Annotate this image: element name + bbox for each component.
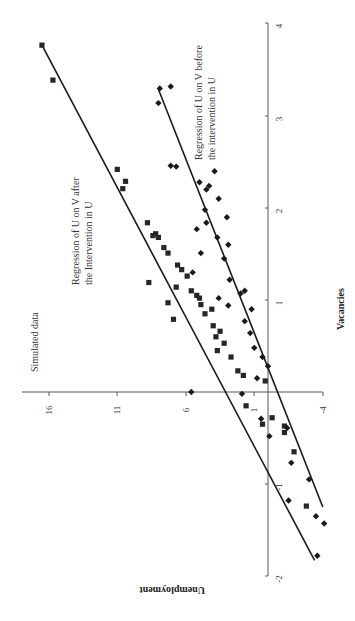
- v-tick-label: 4: [274, 23, 284, 28]
- square-point: [150, 233, 155, 238]
- square-point: [189, 288, 194, 293]
- x-axis-title: Vacancies: [335, 288, 346, 330]
- diamond-point: [313, 513, 319, 519]
- before-regression-label-line1: Regression of U on V before: [193, 45, 204, 160]
- diamond-point: [189, 269, 195, 275]
- square-point: [174, 285, 179, 290]
- before-regression-label-line2: the intervention in U: [206, 76, 217, 160]
- v-tick-label: 1: [274, 301, 284, 306]
- square-point: [179, 267, 184, 272]
- diamond-point: [224, 214, 230, 220]
- square-point: [235, 368, 240, 373]
- diamond-point: [168, 83, 174, 89]
- diamond-point: [168, 162, 174, 168]
- square-point: [291, 449, 296, 454]
- diamond-point: [242, 318, 248, 324]
- square-point: [156, 235, 161, 240]
- diamond-point: [314, 553, 320, 559]
- diamond-point: [211, 168, 217, 174]
- square-point: [39, 43, 44, 48]
- square-point: [175, 262, 180, 267]
- square-point: [215, 348, 220, 353]
- data-points: [39, 43, 327, 559]
- u-tick-label: 16: [44, 405, 54, 415]
- before-regression-line: [158, 89, 322, 507]
- scatter-chart: 4321-1-2 161161-4 Simulated data Regress…: [0, 0, 355, 621]
- square-point: [241, 373, 246, 378]
- square-point: [115, 167, 120, 172]
- diamond-point: [188, 389, 194, 395]
- square-point: [146, 280, 151, 285]
- square-point: [243, 403, 248, 408]
- v-tick-label: 3: [274, 116, 284, 121]
- axes: [22, 23, 323, 576]
- diamond-point: [173, 163, 179, 169]
- square-point: [202, 311, 207, 316]
- diamond-point: [194, 226, 200, 232]
- square-point: [145, 220, 150, 225]
- square-point: [120, 186, 125, 191]
- square-point: [197, 296, 202, 301]
- diamond-point: [215, 196, 221, 202]
- square-point: [171, 317, 176, 322]
- square-point: [304, 503, 309, 508]
- square-point: [282, 430, 287, 435]
- u-tick-label: 1: [249, 408, 259, 413]
- square-point: [260, 422, 265, 427]
- square-point: [209, 307, 214, 312]
- after-regression-label-line2: the Intervention in U: [83, 201, 94, 285]
- diamond-point: [321, 520, 327, 526]
- after-regression-label-line1: Regression of U on V after: [70, 177, 81, 285]
- square-point: [50, 78, 55, 83]
- diamond-point: [254, 375, 260, 381]
- square-point: [165, 250, 170, 255]
- u-tick-label: 6: [181, 407, 191, 412]
- square-point: [161, 245, 166, 250]
- diamond-point: [225, 302, 231, 308]
- diamond-point: [203, 220, 209, 226]
- u-tick-label: -4: [318, 406, 328, 414]
- diamond-point: [248, 306, 254, 312]
- v-tick-label: 2: [274, 209, 284, 214]
- diamond-point: [288, 460, 294, 466]
- square-point: [228, 354, 233, 359]
- square-point: [263, 378, 268, 383]
- diamond-point: [266, 433, 272, 439]
- diamond-point: [196, 179, 202, 185]
- diamond-point: [198, 250, 204, 256]
- diamond-point: [285, 497, 291, 503]
- diamond-point: [251, 345, 257, 351]
- square-point: [185, 273, 190, 278]
- diamond-point: [258, 415, 264, 421]
- square-point: [165, 300, 170, 305]
- square-point: [222, 341, 227, 346]
- u-tick-label: 11: [112, 406, 122, 415]
- diamond-point: [247, 330, 253, 336]
- square-point: [270, 415, 275, 420]
- square-point: [217, 329, 222, 334]
- square-point: [198, 302, 203, 307]
- v-tick-label: -2: [274, 575, 284, 583]
- y-axis-title: Unemployment: [139, 585, 205, 596]
- diamond-point: [155, 100, 161, 106]
- simulated-data-label: Simulated data: [29, 312, 40, 372]
- square-point: [211, 323, 216, 328]
- diamond-point: [157, 85, 163, 91]
- square-point: [123, 179, 128, 184]
- diamond-point: [215, 295, 221, 301]
- diamond-point: [225, 242, 231, 248]
- square-point: [213, 334, 218, 339]
